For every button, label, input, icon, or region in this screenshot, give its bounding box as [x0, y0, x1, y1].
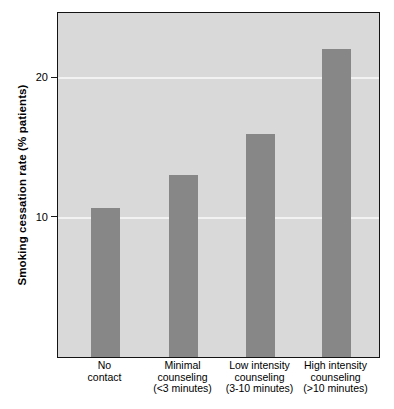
plot-inner	[58, 13, 379, 357]
x-label-line: High intensity	[288, 360, 383, 372]
y-tick-10: 10	[36, 211, 58, 223]
x-label-high-intensity-counseling: High intensity counseling (>10 minutes)	[288, 360, 383, 395]
x-axis-labels: No contact Minimal counseling (<3 minute…	[57, 360, 380, 409]
y-tick-20: 20	[36, 71, 58, 83]
bar-minimal-counseling	[169, 175, 198, 357]
bar-high-intensity-counseling	[322, 49, 351, 357]
y-axis-title: Smoking cessation rate (% patients)	[16, 85, 28, 286]
bar-low-intensity-counseling	[246, 134, 275, 357]
bar-no-contact	[91, 208, 120, 357]
y-tick-label-20: 20	[36, 71, 51, 83]
plot-area	[57, 12, 380, 358]
x-label-line: (>10 minutes)	[288, 383, 383, 395]
bar-chart-figure: Smoking cessation rate (% patients) 20 1…	[0, 0, 394, 409]
y-tick-label-10: 10	[36, 211, 51, 223]
y-axis-ticks: 20 10	[28, 0, 58, 409]
